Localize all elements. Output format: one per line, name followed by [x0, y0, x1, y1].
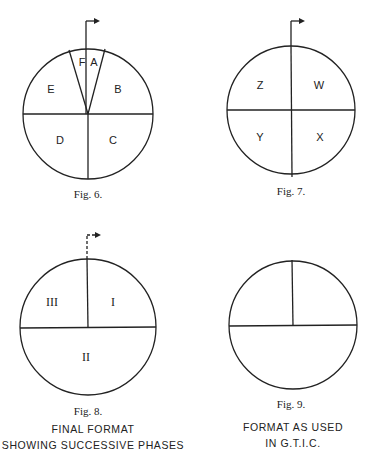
fig9-vertical-divider: [292, 260, 293, 326]
fig6-label-a: A: [90, 56, 98, 68]
fig7-label-w: W: [314, 79, 325, 91]
figure-6-diagram: [23, 18, 153, 179]
fig8-note-line-1: FINAL FORMAT: [51, 423, 134, 435]
fig8-vertical-divider: [87, 259, 88, 328]
figure-9-diagram: [229, 260, 357, 389]
fig8-arrowhead-icon: [95, 232, 101, 238]
figure-7-diagram: [227, 18, 355, 177]
fig6-label-f: F: [79, 56, 86, 68]
figure-8-diagram: [20, 232, 156, 395]
fig7-vertical-divider: [291, 46, 292, 177]
fig7-arrowhead-icon: [299, 18, 305, 24]
diagram-canvas: F A B E D C Z W Y X III I II: [0, 0, 376, 457]
fig6-label-c: C: [109, 134, 117, 146]
fig6-label-d: D: [56, 134, 64, 146]
fig9-caption: Fig. 9.: [277, 398, 305, 410]
fig8-caption: Fig. 8.: [74, 405, 102, 417]
fig7-label-x: X: [316, 131, 324, 143]
fig6-arrowhead-icon: [94, 18, 100, 24]
fig7-label-z: Z: [257, 79, 264, 91]
fig7-caption: Fig. 7.: [277, 185, 305, 197]
fig6-caption: Fig. 6.: [74, 188, 102, 200]
fig6-label-e: E: [47, 83, 54, 95]
fig8-label-ii: II: [82, 350, 90, 364]
fig9-note-line-2: IN G.T.I.C.: [265, 437, 321, 449]
fig8-label-i: I: [111, 295, 115, 309]
fig7-label-y: Y: [256, 131, 264, 143]
fig6-label-b: B: [114, 83, 121, 95]
fig9-note-line-1: FORMAT AS USED: [243, 421, 343, 433]
fig8-label-iii: III: [46, 295, 58, 309]
fig8-note-line-2: SHOWING SUCCESSIVE PHASES: [2, 439, 184, 451]
